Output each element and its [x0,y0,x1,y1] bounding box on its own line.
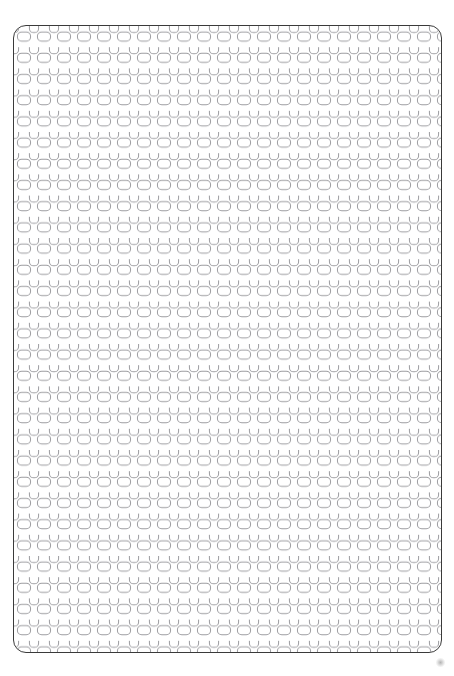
pattern-fill [14,26,441,652]
canvas-root [0,0,454,676]
pill-pattern-layer [14,26,441,652]
perforated-panel [13,25,442,653]
corner-smudge [436,658,445,667]
